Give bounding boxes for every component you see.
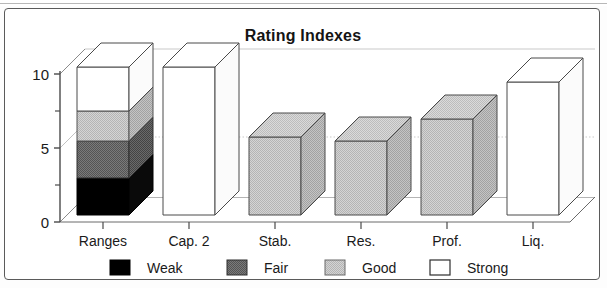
y-tick-label-0: 0 <box>41 214 49 231</box>
bar-segment-fair-front <box>77 141 129 178</box>
x-category-label-res: Res. <box>347 233 376 249</box>
screenshot-root: Rating Indexes <box>0 0 607 288</box>
y-axis <box>54 71 60 222</box>
bar-liq-front <box>507 82 559 215</box>
legend-swatch-good <box>325 260 345 275</box>
chart-frame: Rating Indexes <box>4 8 600 280</box>
bar-prof <box>421 95 497 215</box>
bar-cap-2-side <box>215 43 239 215</box>
legend: Weak Fair Good Strong <box>110 260 508 276</box>
bar-res <box>335 117 411 215</box>
bar-stab <box>249 113 325 215</box>
chart-svg: 0 5 10 <box>5 9 601 281</box>
legend-label-fair: Fair <box>264 260 288 276</box>
x-axis-ticks <box>103 222 533 229</box>
bar-cap-2 <box>163 43 239 215</box>
bar-stab-front <box>249 137 301 215</box>
bar-res-front <box>335 141 387 215</box>
x-category-label-liq: Liq. <box>522 233 545 249</box>
bar-segment-weak-front <box>77 178 129 215</box>
bar-liq-side <box>559 58 583 215</box>
legend-swatch-strong <box>430 260 450 275</box>
bar-segment-good-front <box>77 111 129 141</box>
legend-swatch-weak <box>110 260 130 275</box>
bar-prof-front <box>421 119 473 215</box>
legend-swatch-fair <box>227 260 247 275</box>
x-category-label-prof: Prof. <box>432 233 462 249</box>
legend-label-weak: Weak <box>147 260 184 276</box>
y-tick-label-10: 10 <box>32 66 49 83</box>
bar-segment-strong-front <box>77 67 129 111</box>
bar-liq <box>507 58 583 215</box>
plot-area: 0 5 10 <box>5 9 601 281</box>
x-category-label-cap-2: Cap. 2 <box>168 233 209 249</box>
legend-label-good: Good <box>362 260 396 276</box>
bar-cap-2-front <box>163 67 215 215</box>
y-tick-label-5: 5 <box>41 140 49 157</box>
x-category-label-ranges: Ranges <box>79 233 127 249</box>
scan-edge <box>0 0 607 6</box>
x-category-label-stab: Stab. <box>259 233 292 249</box>
legend-label-strong: Strong <box>467 260 508 276</box>
bar-ranges <box>77 43 153 215</box>
